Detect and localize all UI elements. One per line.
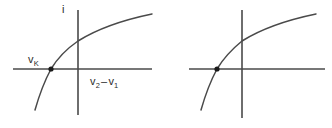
left-voltage-term1-base: v [90, 75, 96, 87]
left-plot-canvas [0, 0, 166, 128]
left-knee-voltage-base: v [28, 53, 34, 65]
left-voltage-axis-label: v2–v1 [90, 76, 118, 87]
right-knee-point-marker [214, 66, 219, 71]
left-voltage-term1-subscript: 2 [96, 81, 100, 90]
iv-characteristic-figure: i vK v2–v1 i vK v2–v4 [0, 0, 332, 128]
left-knee-point-marker [48, 66, 53, 71]
left-iv-curve [35, 14, 152, 110]
left-knee-voltage-label: vK [28, 54, 39, 65]
right-plot-canvas [166, 0, 332, 128]
right-iv-curve [201, 14, 316, 110]
right-iv-characteristic-plot: i vK v2–v4 [166, 0, 332, 128]
left-iv-characteristic-plot: i vK v2–v1 [0, 0, 166, 128]
left-knee-voltage-subscript: K [34, 59, 39, 68]
left-voltage-term2-subscript: 1 [114, 81, 118, 90]
left-current-axis-label: i [62, 4, 65, 15]
